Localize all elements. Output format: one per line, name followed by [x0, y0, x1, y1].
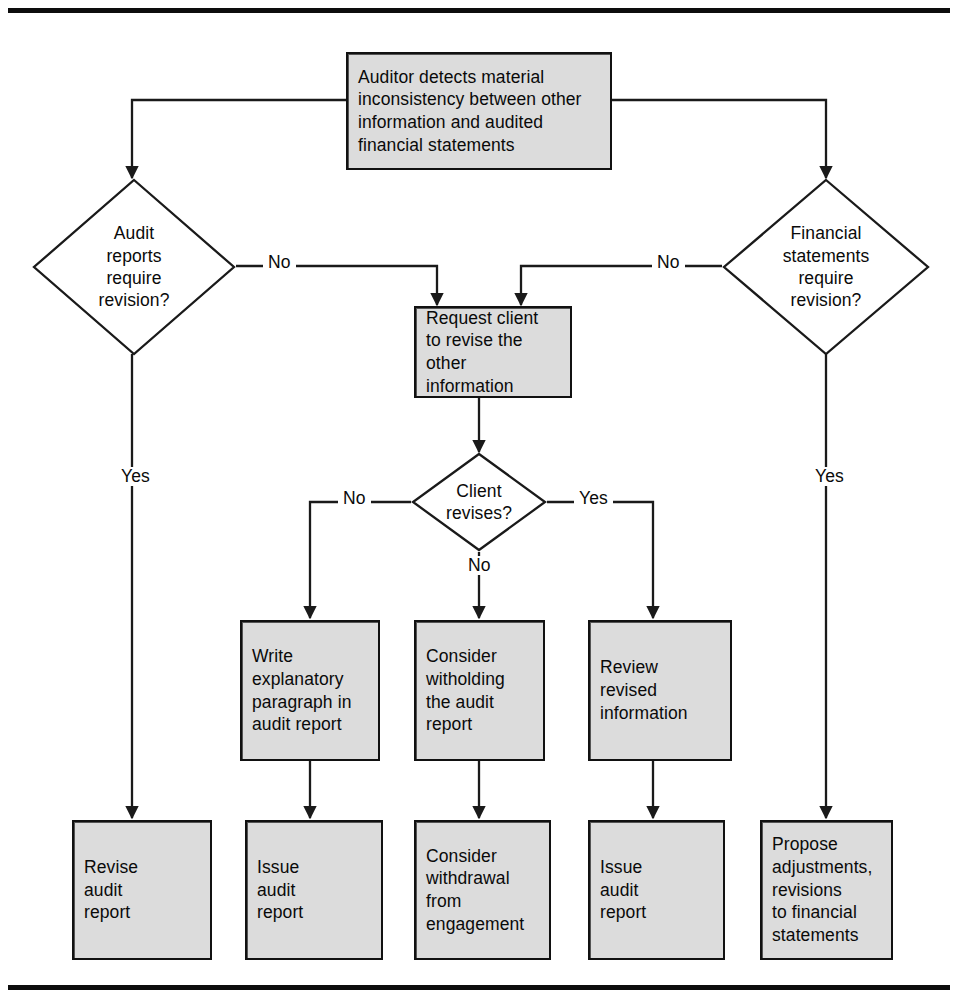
- node-issue-audit-report-1-label: Issue audit report: [247, 856, 381, 924]
- node-financial-statements-require-revision[interactable]: Financial statements require revision?: [722, 178, 930, 356]
- node-review-revised-information-label: Review revised information: [590, 656, 730, 724]
- node-consider-witholding-audit-report-label: Consider witholding the audit report: [416, 645, 543, 736]
- node-request-client-revise-label: Request client to revise the other infor…: [416, 307, 570, 398]
- node-client-revises-label: Client revises?: [446, 480, 512, 525]
- edge-label-no-client-left: No: [338, 489, 371, 508]
- node-audit-reports-require-revision[interactable]: Audit reports require revision?: [32, 178, 236, 356]
- edge-label-no-left-top: No: [263, 253, 296, 272]
- node-revise-audit-report-label: Revise audit report: [74, 856, 210, 924]
- node-propose-adjustments-revisions[interactable]: Propose adjustments, revisions to financ…: [760, 820, 893, 960]
- edge-label-yes-right: Yes: [810, 467, 849, 486]
- node-auditor-detects[interactable]: Auditor detects material inconsistency b…: [346, 52, 612, 170]
- node-client-revises[interactable]: Client revises?: [411, 452, 547, 552]
- node-auditor-detects-label: Auditor detects material inconsistency b…: [348, 66, 610, 157]
- node-issue-audit-report-2-label: Issue audit report: [590, 856, 723, 924]
- edge-label-yes-left: Yes: [116, 467, 155, 486]
- node-financial-statements-require-revision-label: Financial statements require revision?: [783, 222, 870, 312]
- node-request-client-revise[interactable]: Request client to revise the other infor…: [414, 306, 572, 398]
- node-review-revised-information[interactable]: Review revised information: [588, 620, 732, 761]
- edge-label-yes-client-right: Yes: [574, 489, 613, 508]
- node-write-explanatory-paragraph[interactable]: Write explanatory paragraph in audit rep…: [240, 620, 380, 761]
- node-write-explanatory-paragraph-label: Write explanatory paragraph in audit rep…: [242, 645, 378, 736]
- node-audit-reports-require-revision-label: Audit reports require revision?: [99, 222, 170, 312]
- edge-label-no-right-top: No: [652, 253, 685, 272]
- flowchart-page: Auditor detects material inconsistency b…: [0, 0, 958, 1004]
- node-revise-audit-report[interactable]: Revise audit report: [72, 820, 212, 960]
- edge-label-no-client-bottom: No: [463, 556, 496, 575]
- node-issue-audit-report-1[interactable]: Issue audit report: [245, 820, 383, 960]
- node-consider-withdrawal-from-engagement-label: Consider withdrawal from engagement: [416, 845, 549, 936]
- node-issue-audit-report-2[interactable]: Issue audit report: [588, 820, 725, 960]
- node-consider-withdrawal-from-engagement[interactable]: Consider withdrawal from engagement: [414, 820, 551, 960]
- node-consider-witholding-audit-report[interactable]: Consider witholding the audit report: [414, 620, 545, 761]
- node-propose-adjustments-revisions-label: Propose adjustments, revisions to financ…: [762, 833, 891, 947]
